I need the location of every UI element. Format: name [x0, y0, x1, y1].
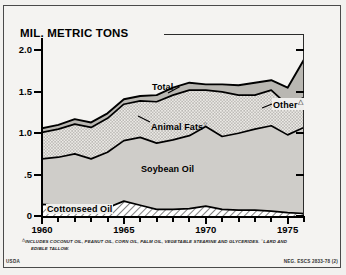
x-tick-mark-minor	[57, 218, 59, 222]
x-tick-mark-minor	[90, 218, 92, 222]
title-bracket-right	[303, 34, 304, 218]
series-label-animal-text: Animal Fats	[151, 122, 203, 132]
right-tick-mark	[296, 215, 304, 217]
y-tick-mark	[34, 91, 41, 93]
y-tick-mark	[34, 215, 41, 217]
x-tick-mark-minor	[303, 218, 305, 222]
footnote-line-1: INCLUDES COCONUT OIL, PEANUT OIL, CORN O…	[25, 239, 260, 244]
y-tick-mark	[34, 49, 41, 51]
x-tick-label: 1960	[31, 224, 52, 235]
series-label-cottonseed-oil: Cottonseed Oil	[46, 204, 113, 214]
footnote-marker-triangle: △	[298, 98, 303, 105]
x-tick-mark-minor	[254, 218, 256, 222]
x-tick-mark-minor	[74, 218, 76, 222]
series-label-other-text: Other	[273, 100, 298, 110]
x-tick-mark-minor	[270, 218, 272, 222]
chart-title: MIL. METRIC TONS	[20, 27, 128, 39]
y-tick-label: 2.0	[8, 44, 32, 55]
footnote-line-2: EDIBLE TALLOW.	[22, 246, 322, 253]
x-tick-mark-minor	[221, 218, 223, 222]
footnote-marker-circle: ○	[203, 120, 207, 127]
y-tick-label: 1.5	[8, 86, 32, 97]
series-label-soybean-oil: Soybean Oil	[141, 164, 194, 174]
footnotes: △INCLUDES COCONUT OIL, PEANUT OIL, CORN …	[22, 238, 322, 253]
y-tick-label: .5	[8, 169, 32, 180]
y-tick-mark	[34, 132, 41, 134]
y-tick-label: 1.0	[8, 127, 32, 138]
x-tick-label: 1975	[277, 224, 298, 235]
right-tick-mark	[296, 132, 304, 134]
agency-label: USDA	[6, 259, 20, 264]
footnote-line-1b: LARD AND	[263, 239, 287, 244]
y-axis-line	[41, 38, 43, 218]
chart-figure: MIL. METRIC TONS 2.01.51.0.50 1960196519…	[0, 0, 346, 275]
series-label-total: Total	[152, 82, 173, 92]
x-tick-mark-minor	[107, 218, 109, 222]
x-tick-label: 1970	[195, 224, 216, 235]
series-label-other: Other△	[272, 98, 304, 110]
negative-number: NEG. ESCS 2833-78 (2)	[284, 259, 338, 264]
right-tick-mark	[296, 49, 304, 51]
y-tick-label: 0	[8, 210, 32, 221]
series-label-animal-fats: Animal Fats○	[151, 120, 207, 132]
right-tick-mark	[296, 91, 304, 93]
right-tick-mark	[296, 174, 304, 176]
x-tick-mark-minor	[238, 218, 240, 222]
x-tick-mark-minor	[172, 218, 174, 222]
x-tick-mark-minor	[139, 218, 141, 222]
x-tick-mark-minor	[156, 218, 158, 222]
y-tick-mark	[34, 174, 41, 176]
x-tick-mark-minor	[188, 218, 190, 222]
x-tick-label: 1965	[113, 224, 134, 235]
